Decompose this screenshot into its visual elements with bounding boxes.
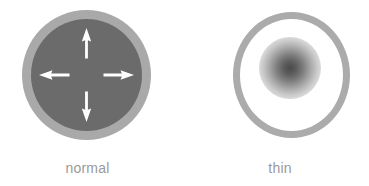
- caption-thin: thin: [185, 160, 369, 176]
- arrow-right-icon: [104, 70, 135, 79]
- normal-diagram: [22, 10, 151, 140]
- arrow-down-icon: [82, 92, 91, 123]
- caption-normal: normal: [0, 160, 175, 176]
- normal-arrow-group: [22, 10, 151, 140]
- thin-diagram: [233, 12, 350, 138]
- panel-thin: thin: [185, 0, 369, 186]
- arrow-up-icon: [82, 28, 91, 59]
- thin-center-blob: [259, 37, 321, 99]
- figure-container: normal thin: [0, 0, 369, 186]
- arrow-left-icon: [39, 70, 70, 79]
- panel-normal: normal: [0, 0, 185, 186]
